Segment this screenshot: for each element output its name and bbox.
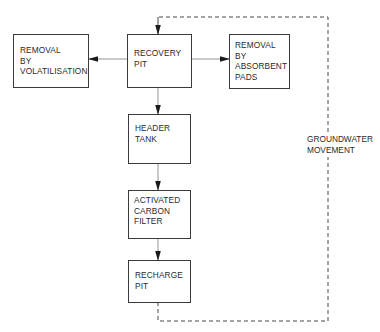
node-text: REMOVAL [20, 45, 88, 56]
node-removal-by-absorbent-pads: REMOVAL BY ABSORBENT PADS [229, 34, 290, 89]
treatment-flow-diagram: REMOVAL BY VOLATILISATION RECOVERY PIT R… [0, 0, 380, 332]
node-text: HEADER [135, 123, 190, 134]
node-text: CARBON [134, 206, 190, 217]
node-text: RECOVERY [134, 48, 191, 59]
node-text: PIT [135, 281, 190, 292]
node-header-tank: HEADER TANK [128, 114, 191, 164]
node-text: VOLATILISATION [20, 66, 88, 77]
node-text: ACTIVATED [134, 195, 190, 206]
node-recovery-pit: RECOVERY PIT [127, 34, 192, 88]
node-text: ABSORBENT [235, 61, 289, 72]
node-text: BY [20, 56, 88, 67]
groundwater-movement-label: GROUNDWATER MOVEMENT [307, 132, 373, 157]
node-text: PIT [134, 59, 191, 70]
node-text: FILTER [134, 216, 190, 227]
node-text: RECHARGE [135, 270, 190, 281]
node-activated-carbon-filter: ACTIVATED CARBON FILTER [128, 190, 191, 239]
node-text: REMOVAL [235, 40, 289, 51]
node-removal-by-volatilisation: REMOVAL BY VOLATILISATION [13, 34, 89, 88]
label-text: GROUNDWATER [307, 134, 373, 145]
node-recharge-pit: RECHARGE PIT [128, 260, 191, 303]
node-text: PADS [235, 72, 289, 83]
label-text: MOVEMENT [307, 145, 373, 156]
node-text: BY [235, 51, 289, 62]
node-text: TANK [135, 134, 190, 145]
